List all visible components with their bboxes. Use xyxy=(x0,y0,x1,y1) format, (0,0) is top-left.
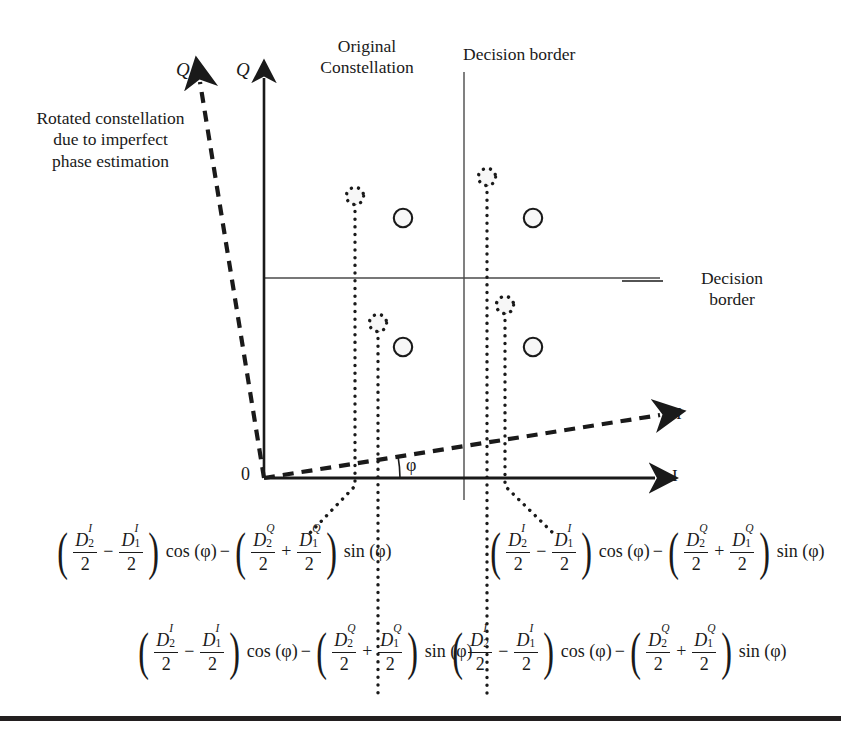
origin-label: 0 xyxy=(241,464,250,486)
fraction: DQ2 2 xyxy=(684,528,708,575)
denominator: 2 xyxy=(690,553,703,575)
paren-close: ) xyxy=(408,630,419,674)
denominator: 2 xyxy=(736,553,749,575)
paren-open: ( xyxy=(138,630,149,674)
paren-open: ( xyxy=(452,630,463,674)
operator: + xyxy=(676,641,686,662)
paren-open: ( xyxy=(668,530,679,574)
fraction: DI1 2 xyxy=(200,628,224,675)
numerator: DI1 xyxy=(514,628,538,653)
denominator: 2 xyxy=(257,553,270,575)
operator: − xyxy=(220,541,230,562)
operator: − xyxy=(184,641,194,662)
cos-term: cos (φ) xyxy=(561,641,612,662)
denominator: 2 xyxy=(206,653,219,675)
numerator: DQ2 xyxy=(684,528,708,553)
numerator: DI1 xyxy=(552,528,576,553)
phase-angle-arc xyxy=(398,456,400,478)
i-axis-rotated-line xyxy=(264,415,660,478)
cos-term: cos (φ) xyxy=(247,641,298,662)
fraction: DI1 2 xyxy=(552,528,576,575)
rotated-point xyxy=(369,314,386,331)
q-axis-rotated-label: Q xyxy=(176,58,190,81)
denominator: 2 xyxy=(79,553,92,575)
formula-bottom-right: ( DI2 2 − DI1 2 ) cos (φ) − ( DQ2 2 + DQ… xyxy=(450,628,787,675)
rotated-point xyxy=(478,168,495,185)
paren-close: ) xyxy=(230,630,241,674)
paren-close: ) xyxy=(327,530,338,574)
cos-term: cos (φ) xyxy=(599,541,650,562)
numerator: DI2 xyxy=(73,528,97,553)
denominator: 2 xyxy=(512,553,525,575)
paren-open: ( xyxy=(630,630,641,674)
fraction: DQ2 2 xyxy=(251,528,275,575)
fraction: DQ2 2 xyxy=(646,628,670,675)
paren-close: ) xyxy=(760,530,771,574)
original-point xyxy=(524,209,542,227)
bottom-divider-rule xyxy=(0,716,841,721)
paren-close: ) xyxy=(149,530,160,574)
operator: − xyxy=(301,641,311,662)
operator: − xyxy=(498,641,508,662)
formula-top-left: ( DI2 2 − DI1 2 ) cos (φ) − ( DQ2 2 + DQ… xyxy=(55,528,392,575)
numerator: DI1 xyxy=(119,528,143,553)
leader-line-1 xyxy=(310,196,355,533)
denominator: 2 xyxy=(338,653,351,675)
sin-term: sin (φ) xyxy=(344,541,392,562)
fraction: DI2 2 xyxy=(73,528,97,575)
numerator: DQ2 xyxy=(332,628,356,653)
numerator: DQ1 xyxy=(378,628,402,653)
formula-bottom-left: ( DI2 2 − DI1 2 ) cos (φ) − ( DQ2 2 + DQ… xyxy=(136,628,473,675)
decision-border-right-label: Decision border xyxy=(672,268,792,311)
decision-border-top-label: Decision border xyxy=(463,44,653,65)
fraction: DI2 2 xyxy=(506,528,530,575)
operator: − xyxy=(103,541,113,562)
fraction: DI1 2 xyxy=(119,528,143,575)
formula-top-right: ( DI2 2 − DI1 2 ) cos (φ) − ( DQ2 2 + DQ… xyxy=(488,528,825,575)
phase-angle-label: φ xyxy=(406,455,416,477)
numerator: DI2 xyxy=(468,628,492,653)
i-axis-rotated-label: I xyxy=(676,404,682,425)
denominator: 2 xyxy=(384,653,397,675)
original-point xyxy=(524,338,542,356)
paren-open: ( xyxy=(57,530,68,574)
paren-close: ) xyxy=(582,530,593,574)
cos-term: cos (φ) xyxy=(166,541,217,562)
operator: − xyxy=(536,541,546,562)
denominator: 2 xyxy=(160,653,173,675)
numerator: DQ1 xyxy=(730,528,754,553)
fraction: DQ1 2 xyxy=(297,528,321,575)
denominator: 2 xyxy=(520,653,533,675)
i-axis-original-label: I xyxy=(672,466,678,487)
operator: + xyxy=(362,641,372,662)
sin-term: sin (φ) xyxy=(777,541,825,562)
rotated-constellation-note: Rotated constellation due to imperfect p… xyxy=(8,108,213,172)
original-constellation-note: Original Constellation xyxy=(287,36,447,79)
paren-open: ( xyxy=(235,530,246,574)
paren-close: ) xyxy=(722,630,733,674)
paren-open: ( xyxy=(316,630,327,674)
figure-page: Rotated constellation due to imperfect p… xyxy=(0,0,841,740)
fraction: DI1 2 xyxy=(514,628,538,675)
numerator: DQ1 xyxy=(692,628,716,653)
fraction: DQ1 2 xyxy=(378,628,402,675)
paren-close: ) xyxy=(544,630,555,674)
rotated-point xyxy=(496,296,513,313)
numerator: DQ1 xyxy=(297,528,321,553)
original-point xyxy=(394,209,412,227)
rotated-point xyxy=(346,187,363,204)
denominator: 2 xyxy=(652,653,665,675)
numerator: DI1 xyxy=(200,628,224,653)
numerator: DI2 xyxy=(154,628,178,653)
sin-term: sin (φ) xyxy=(739,641,787,662)
fraction: DI2 2 xyxy=(154,628,178,675)
operator: + xyxy=(281,541,291,562)
fraction: DI2 2 xyxy=(468,628,492,675)
denominator: 2 xyxy=(558,553,571,575)
fraction: DQ1 2 xyxy=(730,528,754,575)
denominator: 2 xyxy=(698,653,711,675)
paren-open: ( xyxy=(490,530,501,574)
numerator: DI2 xyxy=(506,528,530,553)
fraction: DQ2 2 xyxy=(332,628,356,675)
original-point xyxy=(394,338,412,356)
